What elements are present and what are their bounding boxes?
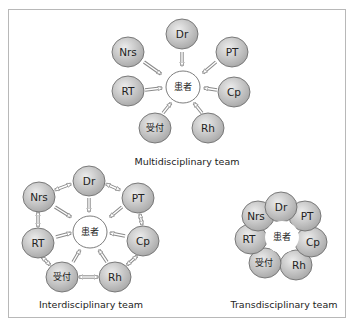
arrow-pt-to-patient	[110, 207, 122, 217]
inter-node-rh: Rh	[99, 262, 131, 292]
svg-text:RT: RT	[243, 233, 257, 245]
interdisciplinary-diagram: Dr Nrs PT RT Cp 受付 Rh 患者	[22, 166, 159, 292]
multi-node-pt: PT	[216, 37, 248, 67]
trans-node-dr: Dr	[265, 192, 297, 222]
svg-text:患者: 患者	[273, 231, 291, 242]
multi-node-dr: Dr	[166, 19, 198, 49]
svg-text:患者: 患者	[174, 81, 192, 92]
svg-text:PT: PT	[132, 192, 145, 204]
svg-text:受付: 受付	[255, 257, 273, 268]
inter-node-patient: 患者	[73, 216, 107, 248]
arrow-rt-to-patient	[56, 233, 71, 237]
multi-node-rh: Rh	[192, 113, 224, 143]
arrow-rh-to-patient	[194, 103, 202, 113]
svg-text:RT: RT	[122, 85, 136, 97]
arrow-uketsuke-to-patient	[73, 250, 80, 262]
svg-text:受付: 受付	[146, 122, 164, 133]
svg-text:受付: 受付	[53, 271, 71, 282]
arrow-pt-cp	[140, 214, 142, 225]
arrow-nrs-to-patient	[55, 207, 71, 217]
svg-text:Nrs: Nrs	[119, 46, 137, 58]
arrow-cp-to-patient	[204, 88, 217, 90]
svg-text:Rh: Rh	[292, 259, 306, 271]
svg-text:Rh: Rh	[108, 271, 122, 283]
arrow-nrs-dr	[55, 184, 71, 190]
inter-node-cp: Cp	[127, 226, 159, 256]
svg-text:Cp: Cp	[136, 235, 150, 247]
svg-text:Dr: Dr	[83, 175, 96, 187]
trans-node-cp: Cp	[295, 227, 327, 257]
inter-node-pt: PT	[122, 183, 154, 213]
multi-node-rt: RT	[112, 76, 144, 106]
multi-node-nrs: Nrs	[112, 37, 144, 67]
svg-text:Dr: Dr	[275, 201, 288, 213]
svg-text:RT: RT	[32, 237, 46, 249]
svg-text:患者: 患者	[81, 226, 99, 237]
multidisciplinary-team-label: Multidisciplinary team	[134, 156, 239, 167]
arrow-pt-to-patient	[203, 62, 216, 73]
svg-text:Nrs: Nrs	[247, 210, 265, 222]
multi-node-uketsuke: 受付	[139, 113, 171, 143]
transdisciplinary-team-label: Transdisciplinary team	[231, 299, 338, 310]
arrow-rt-to-patient	[145, 88, 162, 90]
svg-text:Rh: Rh	[201, 122, 215, 134]
arrow-uketsuke-to-patient	[163, 103, 171, 113]
arrow-dr-pt	[106, 184, 120, 190]
arrow-cp-to-patient	[110, 233, 125, 236]
arrow-uketsuke-rt	[42, 257, 50, 265]
inter-node-dr: Dr	[73, 166, 105, 196]
interdisciplinary-team-label: Interdisciplinary team	[39, 299, 143, 310]
svg-text:Cp: Cp	[227, 86, 241, 98]
trans-node-patient: 患者	[265, 221, 299, 253]
inter-node-nrs: Nrs	[23, 182, 55, 212]
inter-node-rt: RT	[22, 228, 54, 258]
svg-text:PT: PT	[226, 46, 239, 58]
arrow-cp-rh	[127, 256, 137, 265]
inter-node-uketsuke: 受付	[46, 262, 78, 292]
multidisciplinary-diagram: Dr Nrs PT RT Cp 受付 Rh 患者	[112, 19, 250, 143]
arrow-rh-to-patient	[99, 250, 107, 262]
svg-text:Cp: Cp	[306, 236, 320, 248]
svg-text:PT: PT	[301, 210, 314, 222]
multi-node-patient: 患者	[166, 71, 200, 103]
transdisciplinary-diagram: Rh 受付 Cp RT PT Nrs Dr 患者	[235, 192, 327, 280]
svg-text:Nrs: Nrs	[30, 191, 48, 203]
svg-text:Dr: Dr	[176, 28, 189, 40]
multi-node-cp: Cp	[218, 77, 250, 107]
arrow-nrs-to-patient	[144, 62, 161, 74]
